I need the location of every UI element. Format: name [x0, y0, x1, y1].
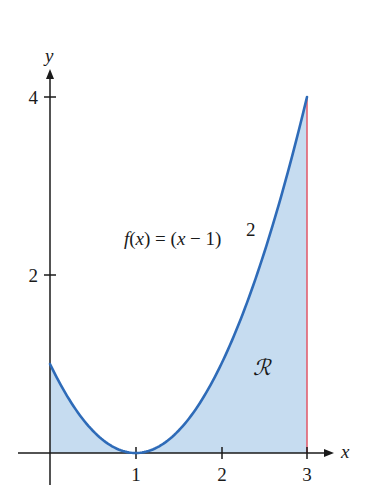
function-label: f(x) = (x − 1) [124, 228, 221, 250]
y-tick-label-2: 2 [29, 265, 39, 286]
region-label: ℛ [253, 355, 272, 380]
shaded-region-r [50, 97, 307, 453]
function-exponent: 2 [246, 219, 256, 240]
y-tick-label-4: 4 [29, 87, 39, 108]
y-axis-label: y [43, 45, 54, 66]
x-tick-label-2: 2 [217, 464, 227, 485]
x-axis-arrow-icon [324, 449, 334, 457]
function-graph: 1 2 3 2 4 x y f(x) = (x − 1) 2 ℛ [0, 0, 373, 504]
y-axis-arrow-icon [46, 69, 54, 79]
x-axis-label: x [340, 441, 350, 462]
x-tick-label-1: 1 [131, 464, 141, 485]
x-tick-label-3: 3 [302, 464, 312, 485]
